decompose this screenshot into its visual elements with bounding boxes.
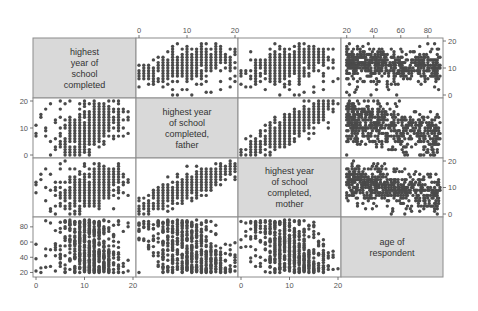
scatterplot-matrix: highestyear ofschoolcompletedhighest yea…	[0, 0, 478, 311]
variable-label-line: highest year	[162, 107, 211, 117]
axis-tick-label: 10	[448, 183, 456, 192]
variable-label-cell: highestyear ofschoolcompleted	[33, 38, 136, 98]
variable-label-line: highest	[70, 47, 100, 57]
variable-label-cell: highest yearof schoolcompleted,father	[136, 98, 238, 158]
axis-tick-label: 0	[24, 151, 28, 160]
axis-tick-label: 80	[424, 26, 432, 35]
axis-tick-label: 10	[448, 64, 456, 73]
axis-tick-label: 60	[397, 26, 405, 35]
axis-tick-label: 20	[231, 26, 239, 35]
axis-tick-label: 20	[343, 26, 351, 35]
variable-label-line: mother	[275, 199, 303, 209]
scatter-panel	[33, 217, 136, 277]
axis-tick-label: 10	[183, 26, 191, 35]
variable-label-line: respondent	[369, 248, 415, 258]
variable-label-cell: age ofrespondent	[341, 217, 443, 277]
scatter-panel	[33, 98, 136, 158]
axis-tick-label: 20	[448, 37, 456, 46]
axis-tick-label: 20	[129, 281, 137, 290]
variable-label-line: highest year	[265, 166, 314, 176]
scatter-panel	[341, 98, 443, 158]
variable-label-cell: highest yearof schoolcompleted,mother	[238, 158, 341, 217]
variable-label-line: year of	[71, 58, 99, 68]
axis-tick-label: 20	[448, 157, 456, 166]
variable-label-line: school	[71, 69, 97, 79]
axis-tick-label: 0	[34, 281, 38, 290]
axis-tick-label: 10	[80, 281, 88, 290]
scatter-panel	[136, 38, 238, 98]
axis-tick-label: 20	[20, 97, 28, 106]
scatter-panel	[136, 158, 238, 217]
axis-tick-label: 80	[20, 222, 28, 231]
variable-label-line: completed	[64, 80, 106, 90]
axis-tick-label: 0	[239, 281, 243, 290]
variable-label-line: father	[175, 140, 198, 150]
matrix-panels: highestyear ofschoolcompletedhighest yea…	[33, 38, 443, 277]
variable-label-line: completed,	[267, 188, 311, 198]
scatter-panel	[238, 217, 341, 277]
axis-tick-label: 0	[448, 91, 452, 100]
scatter-panel	[341, 158, 443, 217]
axis-tick-label: 10	[285, 281, 293, 290]
variable-label-line: age of	[379, 237, 405, 247]
scatter-panel	[238, 98, 341, 158]
axis-tick-label: 20	[334, 281, 342, 290]
variable-label-line: of school	[271, 177, 307, 187]
axis-tick-label: 40	[20, 253, 28, 262]
axis-tick-label: 20	[20, 268, 28, 277]
scatter-panel	[341, 38, 443, 98]
scatter-panel	[136, 217, 238, 277]
variable-label-line: completed,	[165, 129, 209, 139]
axis-tick-label: 0	[448, 210, 452, 219]
axis-tick-label: 0	[137, 26, 141, 35]
axis-tick-label: 40	[370, 26, 378, 35]
scatter-panel	[238, 38, 341, 98]
variable-label-line: of school	[169, 118, 205, 128]
axis-tick-label: 60	[20, 238, 28, 247]
scatter-panel	[33, 158, 136, 217]
axis-tick-label: 10	[20, 124, 28, 133]
